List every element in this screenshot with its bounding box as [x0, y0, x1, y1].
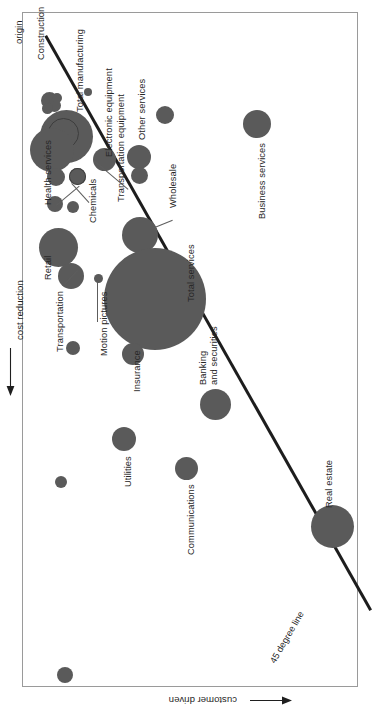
label-banking-line1: Banking: [198, 351, 208, 385]
bubble-banking-and-securities: [200, 389, 231, 420]
label-transportation-equipment: Transportation equipment: [116, 94, 126, 202]
label-transportation: Transportation: [55, 291, 65, 352]
label-banking-line2: and securities: [209, 326, 219, 385]
label-communications: Communications: [186, 484, 196, 555]
bubble-other-services-c: [156, 106, 174, 124]
label-wholesale: Wholesale: [168, 164, 178, 208]
bubble-real-estate: [311, 505, 354, 548]
label-total-services: Total services: [186, 244, 196, 302]
axis-label-cost-reduction: cost reduction: [14, 280, 25, 340]
bubble-unlabeled-left-2: [55, 476, 67, 488]
bubble-business-services: [243, 110, 271, 138]
label-health-services: Health services: [43, 140, 53, 205]
label-total-manufacturing: Total manufacturing: [75, 29, 85, 112]
bubble-health-small-b: [67, 201, 79, 213]
label-motion-pictures: Motion pictures: [99, 291, 109, 356]
label-electronic-equipment: Electronic equipment: [104, 68, 114, 157]
label-construction: Construction: [36, 7, 46, 60]
bubble-other-services-b: [131, 167, 148, 184]
label-retail: Retail: [43, 256, 53, 280]
bubble-motion-pictures: [94, 274, 103, 283]
bubble-construction-d: [52, 93, 62, 103]
bubble-construction-c: [42, 103, 53, 114]
axis-label-customer-driven: customer driven: [169, 695, 237, 706]
label-other-services: Other services: [137, 79, 147, 140]
label-origin: origin: [13, 21, 24, 44]
label-business-services: Business services: [257, 143, 267, 219]
bubble-utilities: [112, 427, 136, 451]
bubble-communications: [175, 457, 198, 480]
label-insurance: Insurance: [132, 350, 142, 392]
label-chemicals: Chemicals: [88, 179, 98, 223]
bubble-unlabeled-left-3: [57, 667, 73, 683]
bubble-unlabeled-left-1: [66, 341, 80, 355]
leader-motion-pictures: [97, 282, 98, 322]
bubble-other-services-a: [127, 145, 151, 169]
label-real-estate: Real estate: [324, 460, 334, 508]
label-banking-and-securities: Banking and securities: [198, 326, 220, 385]
label-utilities: Utilities: [123, 456, 133, 487]
